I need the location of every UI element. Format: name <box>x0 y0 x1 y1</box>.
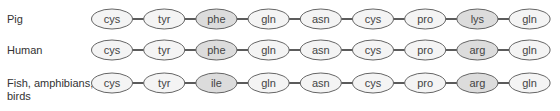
amino-acid-label: cys <box>104 13 121 25</box>
amino-acid-label: phe <box>207 44 225 56</box>
sequence-row-0: cystyrpheglnasncysprolysgln <box>92 9 551 29</box>
amino-acid-label: ile <box>211 77 222 89</box>
amino-acid-label: gln <box>261 44 276 56</box>
amino-acid-label: gln <box>261 77 276 89</box>
amino-acid-label: tyr <box>158 77 171 89</box>
amino-acid-label: tyr <box>158 13 171 25</box>
amino-acid-label: pro <box>417 44 433 56</box>
amino-acid-label: gln <box>261 13 276 25</box>
amino-acid-label: gln <box>522 13 537 25</box>
peptide-sequence-diagram: cystyrpheglnasncysprolysglncystyrpheglna… <box>0 0 560 111</box>
amino-acid-label: gln <box>522 77 537 89</box>
amino-acid-label: cys <box>365 44 382 56</box>
amino-acid-label: asn <box>312 44 330 56</box>
amino-acid-label: tyr <box>158 44 171 56</box>
amino-acid-label: pro <box>417 77 433 89</box>
amino-acid-label: arg <box>469 77 485 89</box>
amino-acid-label: asn <box>312 77 330 89</box>
amino-acid-label: cys <box>365 13 382 25</box>
amino-acid-label: cys <box>104 77 121 89</box>
amino-acid-label: lys <box>471 13 485 25</box>
amino-acid-label: arg <box>469 44 485 56</box>
amino-acid-label: asn <box>312 13 330 25</box>
amino-acid-label: pro <box>417 13 433 25</box>
amino-acid-label: cys <box>365 77 382 89</box>
amino-acid-label: phe <box>207 13 225 25</box>
sequence-row-2: cystyrileglnasncysproarggln <box>92 73 551 93</box>
sequence-row-1: cystyrpheglnasncysproarggln <box>92 40 551 60</box>
amino-acid-label: gln <box>522 44 537 56</box>
amino-acid-label: cys <box>104 44 121 56</box>
